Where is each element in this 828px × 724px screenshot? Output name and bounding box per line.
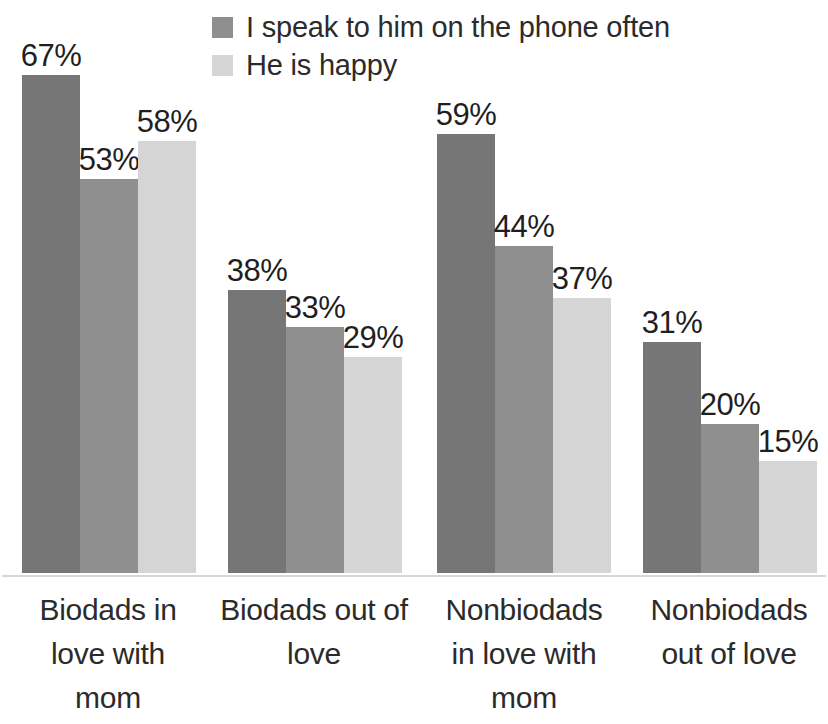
bar[interactable]: 53%	[80, 179, 138, 573]
category-label-line: Biodads out of	[204, 588, 424, 632]
bar-rect	[80, 179, 138, 573]
category-axis-labels: Biodads inlove withmomBiodads out oflove…	[0, 588, 828, 724]
bar-chart: I speak to him on the phone oftenHe is h…	[0, 0, 828, 724]
bar[interactable]: 44%	[495, 246, 553, 573]
category-label: Nonbiodadsout of love	[629, 588, 828, 676]
plot-area: 67%53%58%38%33%29%59%44%37%31%20%15%	[0, 0, 828, 578]
bar-rect	[286, 327, 344, 573]
bar-rect	[228, 290, 286, 573]
bar-value-label: 38%	[227, 255, 288, 286]
bar-rect	[22, 75, 80, 573]
bar-rect	[495, 246, 553, 573]
category-label-line: in love with	[409, 632, 639, 676]
category-label-line: Nonbiodads	[409, 588, 639, 632]
bar-value-label: 44%	[494, 211, 555, 242]
bar-rect	[437, 134, 495, 573]
category-label-line: love with	[8, 632, 208, 676]
bar-group: 67%53%58%	[22, 0, 196, 578]
bar[interactable]: 20%	[701, 424, 759, 573]
bar-value-label: 20%	[700, 389, 761, 420]
bar-group: 31%20%15%	[643, 0, 817, 578]
category-label-line: mom	[409, 676, 639, 720]
category-label-line: Biodads in	[8, 588, 208, 632]
category-label: Biodads inlove withmom	[8, 588, 208, 720]
category-label: Biodads out oflove	[204, 588, 424, 676]
bar[interactable]: 59%	[437, 134, 495, 573]
category-label-line: Nonbiodads	[629, 588, 828, 632]
bar-group: 38%33%29%	[228, 0, 402, 578]
bar-group: 59%44%37%	[437, 0, 611, 578]
bar-rect	[344, 357, 402, 573]
bar-rect	[138, 141, 196, 573]
bar[interactable]: 38%	[228, 290, 286, 573]
bar-value-label: 33%	[285, 292, 346, 323]
bar-value-label: 29%	[343, 322, 404, 353]
category-label: Nonbiodadsin love withmom	[409, 588, 639, 720]
bar-value-label: 58%	[137, 106, 198, 137]
bar[interactable]: 37%	[553, 298, 611, 573]
bar-rect	[553, 298, 611, 573]
bar-value-label: 31%	[642, 307, 703, 338]
category-label-line: love	[204, 632, 424, 676]
bar[interactable]: 29%	[344, 357, 402, 573]
bar-rect	[701, 424, 759, 573]
bar[interactable]: 67%	[22, 75, 80, 573]
bar-value-label: 67%	[21, 40, 82, 71]
bar-rect	[759, 461, 817, 573]
bar-value-label: 15%	[758, 426, 819, 457]
bar[interactable]: 15%	[759, 461, 817, 573]
bar-value-label: 37%	[552, 263, 613, 294]
bar[interactable]: 33%	[286, 327, 344, 573]
bar[interactable]: 58%	[138, 141, 196, 573]
category-label-line: mom	[8, 676, 208, 720]
category-axis-line	[2, 575, 826, 577]
bar[interactable]: 31%	[643, 342, 701, 573]
bar-rect	[643, 342, 701, 573]
bar-value-label: 59%	[436, 99, 497, 130]
category-label-line: out of love	[629, 632, 828, 676]
bar-value-label: 53%	[79, 144, 140, 175]
